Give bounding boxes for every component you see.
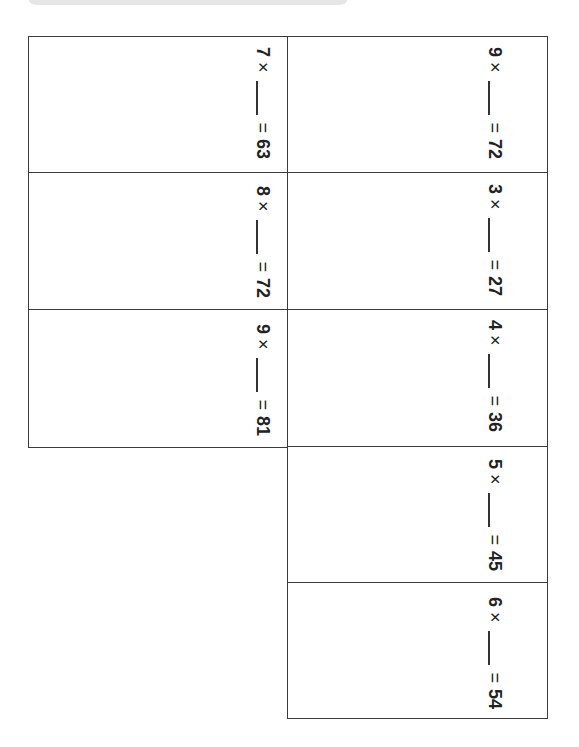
factor: 9 (485, 47, 505, 57)
flashcard: 6 × = 54 (287, 582, 548, 719)
flashcard: 7 × = 63 (28, 36, 289, 174)
product: 36 (485, 412, 505, 432)
times-sign: × (485, 199, 505, 210)
equals-sign: = (485, 123, 505, 134)
factor: 7 (253, 47, 273, 57)
header-bar (28, 0, 348, 5)
answer-blank[interactable] (488, 631, 490, 665)
times-sign: × (253, 339, 273, 350)
factor: 5 (485, 459, 505, 469)
times-sign: × (485, 612, 505, 623)
product: 54 (485, 689, 505, 709)
equals-sign: = (485, 673, 505, 684)
factor: 6 (485, 597, 505, 607)
answer-blank[interactable] (488, 81, 490, 115)
product: 81 (253, 416, 273, 436)
equals-sign: = (485, 535, 505, 546)
times-sign: × (485, 335, 505, 346)
flashcard: 9 × = 81 (28, 309, 289, 448)
flashcard: 3 × = 27 (287, 172, 548, 311)
factor: 8 (253, 186, 273, 196)
equation: 8 × = 72 (253, 186, 273, 298)
equals-sign: = (253, 262, 273, 273)
product: 72 (485, 139, 505, 159)
product: 27 (485, 276, 505, 296)
times-sign: × (253, 201, 273, 212)
answer-blank[interactable] (488, 493, 490, 527)
flashcard: 4 × = 36 (287, 309, 548, 448)
equals-sign: = (253, 400, 273, 411)
answer-blank[interactable] (256, 220, 258, 254)
equals-sign: = (253, 123, 273, 134)
equals-sign: = (485, 260, 505, 271)
answer-blank[interactable] (488, 354, 490, 388)
equals-sign: = (485, 396, 505, 407)
product: 45 (485, 551, 505, 571)
times-sign: × (485, 62, 505, 73)
factor: 3 (485, 184, 505, 194)
times-sign: × (253, 62, 273, 73)
answer-blank[interactable] (488, 218, 490, 252)
equation: 9 × = 81 (253, 324, 273, 436)
answer-blank[interactable] (256, 81, 258, 115)
answer-blank[interactable] (256, 358, 258, 392)
equation: 7 × = 63 (253, 47, 273, 159)
flashcard: 5 × = 45 (287, 446, 548, 584)
equation: 6 × = 54 (485, 597, 505, 709)
equation: 3 × = 27 (485, 184, 505, 296)
factor: 4 (485, 320, 505, 330)
times-sign: × (485, 474, 505, 485)
equation: 4 × = 36 (485, 320, 505, 432)
flashcard: 9 × = 72 (287, 36, 548, 174)
flashcard: 8 × = 72 (28, 172, 289, 311)
equation: 5 × = 45 (485, 459, 505, 571)
equation: 9 × = 72 (485, 47, 505, 159)
factor: 9 (253, 324, 273, 334)
product: 72 (253, 278, 273, 298)
product: 63 (253, 139, 273, 159)
